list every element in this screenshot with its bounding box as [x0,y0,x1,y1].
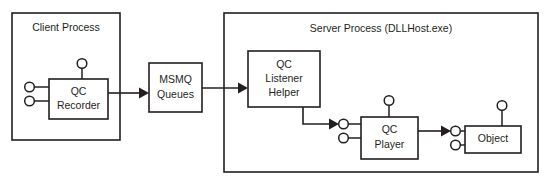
player-interface-left-lower-circle [339,133,349,143]
object-node: Object [465,126,521,153]
qc-listener-helper-label-line3: Helper [269,86,300,98]
msmq-queues-node: MSMQ Queues [149,63,202,112]
object-label-line1: Object [478,132,508,144]
server-process-label: Server Process (DLLHost.exe) [310,22,452,34]
qc-listener-helper-label-line1: QC [276,58,292,70]
recorder-to-msmq-arrowhead [139,88,149,99]
qc-player-label-line2: Player [375,138,405,150]
player-interface-left-upper-circle [339,119,349,129]
recorder-interface-left-upper-circle [25,82,35,92]
client-process-container: Client Process [12,13,120,140]
qc-listener-helper-label-line2: Listener [265,72,303,84]
diagram-canvas: Client Process Server Process (DLLHost.e… [0,0,550,183]
recorder-interface-top-circle [77,59,87,69]
qc-recorder-label-line1: QC [71,85,87,97]
msmq-queues-label-line1: MSMQ [159,73,192,85]
recorder-interface-left-lower-circle [25,96,35,106]
qc-listener-helper-node: QC Listener Helper [248,51,320,107]
qc-recorder-node: QC Recorder [49,79,108,119]
object-interface-top-circle [497,101,507,111]
object-interface-left-lower-circle [451,140,461,150]
object-interface-left-upper-circle [451,126,461,136]
player-interface-top-circle [384,96,394,106]
qc-recorder-label-line2: Recorder [57,99,101,111]
msmq-queues-label-line2: Queues [157,88,194,100]
client-process-label: Client Process [32,21,100,33]
qc-player-node: QC Player [361,117,418,159]
qc-player-label-line1: QC [382,123,398,135]
